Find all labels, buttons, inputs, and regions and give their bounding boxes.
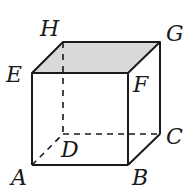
label-b: B <box>131 165 148 190</box>
label-d: D <box>60 137 79 162</box>
label-f: F <box>132 72 149 97</box>
label-g: G <box>166 21 184 46</box>
label-e: E <box>5 62 22 87</box>
label-c: C <box>166 124 183 149</box>
label-h: H <box>39 16 60 41</box>
top-face-efgh <box>32 42 160 73</box>
edge-ad-hidden <box>32 134 63 165</box>
label-a: A <box>9 165 27 190</box>
cube-diagram: H G E F C D A B <box>0 0 194 196</box>
edge-bc <box>128 134 160 165</box>
